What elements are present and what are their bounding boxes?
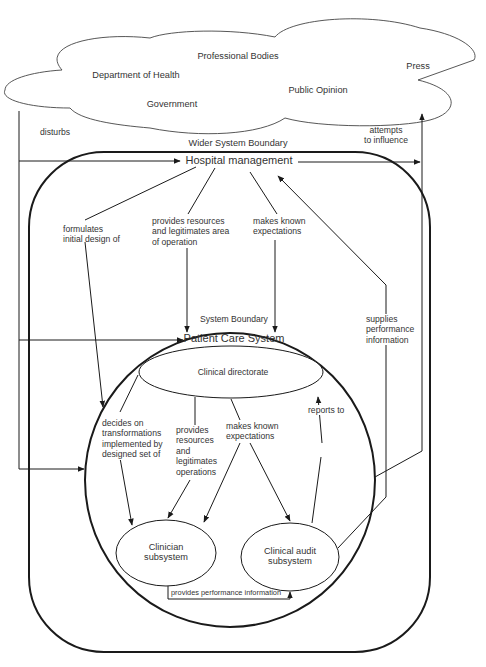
audit-line-2: subsystem xyxy=(264,556,316,566)
provides-resources-edge-top xyxy=(188,168,215,214)
provides-performance-label: provides performance information xyxy=(171,588,281,598)
reports-to-edge-top xyxy=(318,397,322,443)
patient-care-system-title: Patient Care System xyxy=(184,333,285,343)
directorate-provides-edge-bottom xyxy=(168,480,190,518)
directorate-makes-known-edge-b xyxy=(250,443,290,521)
makes-known-line-2: expectations xyxy=(253,226,306,236)
system-boundary-label: System Boundary xyxy=(200,314,268,324)
attempts-to-influence-edge xyxy=(375,114,422,477)
hospital-management-node[interactable]: Hospital management xyxy=(185,155,292,165)
wider-system-boundary-label: Wider System Boundary xyxy=(188,138,287,148)
professional-bodies-label: Professional Bodies xyxy=(197,51,278,61)
directorate-makes-known-edge-a xyxy=(231,399,240,420)
makes-known-line-1: makes known xyxy=(253,216,306,226)
government-label: Government xyxy=(147,99,198,109)
clinician-subsystem-label: Clinician subsystem xyxy=(144,542,188,563)
dir-makes-known-line-1: makes known xyxy=(226,421,279,431)
attempts-line-1: attempts xyxy=(364,125,408,135)
reports-to-label: reports to xyxy=(308,405,344,415)
attempts-to-influence-label: attempts to influence xyxy=(364,125,408,146)
clinical-audit-subsystem-label: Clinical audit subsystem xyxy=(264,546,316,567)
formulates-label: formulates initial design of xyxy=(63,224,120,245)
decides-edge-bottom xyxy=(120,458,132,525)
clinician-line-1: Clinician xyxy=(144,542,188,552)
dir-provides-line-2: resources xyxy=(176,435,217,445)
formulates-line-2: initial design of xyxy=(63,234,120,244)
public-opinion-label: Public Opinion xyxy=(288,85,347,95)
formulates-line-1: formulates xyxy=(63,224,120,234)
dir-provides-line-4: legitimates xyxy=(176,456,217,466)
directorate-provides-label: provides resources and legitimates opera… xyxy=(176,425,217,477)
supplies-line-1: supplies xyxy=(366,314,414,324)
decides-on-label: decides on transformations implemented b… xyxy=(102,418,163,460)
environment-cloud xyxy=(4,19,475,134)
press-label: Press xyxy=(406,61,430,71)
decides-line-4: designed set of xyxy=(102,449,163,459)
decides-line-3: implemented by xyxy=(102,439,163,449)
clinical-directorate-label: Clinical directorate xyxy=(198,367,269,377)
dir-provides-line-1: provides xyxy=(176,425,217,435)
provides-resources-label: provides resources and legitimates area … xyxy=(152,216,229,247)
supplies-line-3: information xyxy=(366,335,414,345)
decides-line-2: transformations xyxy=(102,428,163,438)
audit-line-1: Clinical audit xyxy=(264,546,316,556)
supplies-line-2: performance xyxy=(366,324,414,334)
dir-makes-known-line-2: expectations xyxy=(226,431,279,441)
dir-provides-line-5: operations xyxy=(176,467,217,477)
formulates-edge-bottom xyxy=(85,242,103,407)
supplies-performance-label: supplies performance information xyxy=(366,314,414,345)
decides-line-1: decides on xyxy=(102,418,163,428)
department-of-health-label: Department of Health xyxy=(92,70,179,80)
directorate-makes-known-label: makes known expectations xyxy=(226,421,279,442)
provides-resources-line-2: and legitimates area xyxy=(152,226,229,236)
attempts-line-2: to influence xyxy=(364,135,408,145)
dir-provides-line-3: and xyxy=(176,446,217,456)
makes-known-label: makes known expectations xyxy=(253,216,306,237)
disturbs-label: disturbs xyxy=(40,127,70,137)
reports-to-edge xyxy=(312,457,321,523)
provides-resources-line-3: of operation xyxy=(152,237,229,247)
makes-known-edge-top xyxy=(250,172,277,214)
formulates-edge-top xyxy=(85,167,196,220)
provides-resources-line-1: provides resources xyxy=(152,216,229,226)
clinician-line-2: subsystem xyxy=(144,552,188,562)
